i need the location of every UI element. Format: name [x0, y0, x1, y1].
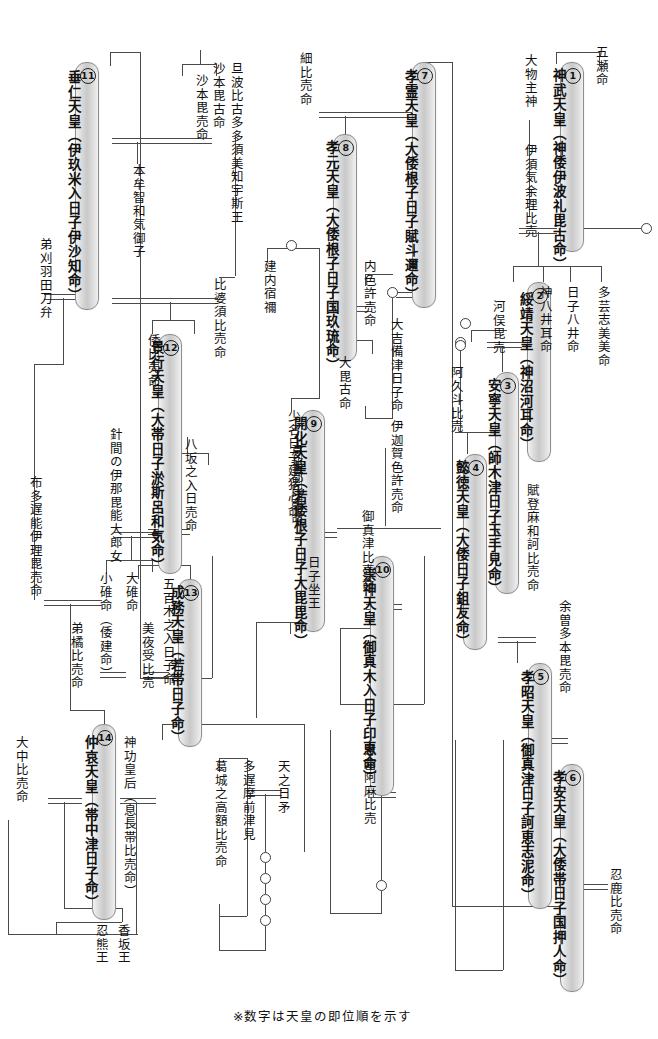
person-takeuchi: 建内宿禰: [262, 260, 275, 314]
emperor-capsule-11[interactable]: 11 垂仁天皇（伊玖米入日子伊沙知命）: [75, 62, 99, 310]
person-kousu: 小碓命（倭建命）: [98, 572, 111, 680]
generation-node: [260, 852, 271, 863]
connector: [345, 116, 346, 134]
connector: [570, 266, 571, 282]
connector: [219, 904, 220, 916]
connector: [337, 528, 441, 529]
connector: [304, 724, 305, 852]
connector: [110, 52, 140, 53]
person-tajima: 多遅摩前津見: [241, 760, 254, 841]
person-hikoimasu: 日子坐王: [306, 556, 319, 610]
emperor-capsule-3[interactable]: 3 安寧天皇（師木津日子玉手見命）: [495, 372, 519, 594]
connector: [385, 448, 386, 526]
person-hikoyai: 日子八井命: [565, 286, 578, 354]
emperor-capsule-1[interactable]: 1 神武天皇（神倭伊波礼毘古命）: [560, 62, 584, 252]
unnamed-person-node: [455, 340, 466, 351]
person-futajinoiri: 布多遅能伊理毘売命: [28, 476, 41, 598]
connector: [319, 248, 320, 398]
connector: [8, 820, 9, 934]
connector: [64, 802, 65, 908]
connector: [455, 740, 456, 970]
person-isukeyori: 伊須気余理比売: [523, 144, 536, 239]
person-uchishikome: 内色許売命: [362, 260, 375, 328]
person-kamuyaimimi: 神八井耳命: [538, 286, 551, 354]
person-kagosaka: 香坂王: [116, 924, 129, 965]
emperor-capsule-12[interactable]: 12 景行天皇（大帯日子淤斯呂和気命）: [158, 334, 182, 574]
emperor-name-14: 仲哀天皇（帯中津日子命）: [83, 735, 99, 909]
connector: [131, 536, 132, 560]
connector: [424, 556, 425, 704]
connector: [330, 913, 382, 914]
connector: [110, 52, 111, 66]
emperor-name-7: 孝霊天皇（大倭根子日子賦斗邇命）: [403, 69, 419, 301]
connector: [265, 884, 266, 894]
connector: [467, 432, 468, 454]
connector: [538, 232, 539, 266]
connector: [256, 622, 292, 623]
person-homuchi: 本牟智和気御子: [131, 164, 144, 259]
connector: [190, 565, 191, 579]
unnamed-person-node: [286, 240, 297, 251]
person-ototachibana: 弟橘比売命: [69, 622, 82, 690]
person-onaka: 大中比売命: [14, 736, 27, 804]
person-harima: 針間の伊那毘能大郎女: [108, 428, 121, 563]
person-tanba: 旦波比古多多須美知宇斯王: [229, 62, 242, 224]
emperor-number-4: 4: [468, 460, 484, 476]
emperor-number-1: 1: [565, 68, 581, 84]
person-kuwashi: 細比売命: [298, 52, 311, 106]
connector: [194, 320, 195, 334]
person-okitsu: 意祁都比売命: [289, 444, 302, 525]
connector: [556, 52, 557, 64]
person-kawamata: 河俣毘売: [491, 300, 504, 354]
connector: [452, 62, 453, 906]
connector: [381, 858, 382, 880]
connector: [265, 926, 266, 950]
person-jingu: 神功皇后（息長帯比売命）: [122, 736, 135, 898]
emperor-name-1: 神武天皇（神倭伊波礼毘古命）: [551, 68, 567, 271]
connector: [104, 710, 105, 724]
emperor-capsule-13[interactable]: 13 成務天皇（若帯日子命）: [178, 579, 202, 747]
person-futomawaka: 賦登麻和訶比売命: [525, 484, 538, 592]
emperor-number-8: 8: [338, 140, 354, 156]
generation-node: [260, 915, 271, 926]
connector: [70, 710, 104, 711]
marriage-connector: [44, 600, 102, 606]
person-okibitsu: 大吉備津日子命: [389, 318, 402, 413]
emperor-name-6: 孝安天皇（大倭帯日子国押人命）: [551, 770, 567, 988]
person-ousu: 大碓命: [124, 572, 137, 613]
emperor-name-8: 孝元天皇（大倭根子日子国玖琉命）: [324, 140, 340, 372]
person-akuto: 阿久斗比売: [449, 366, 462, 434]
emperor-capsule-6[interactable]: 6 孝安天皇（大倭帯日子国押人命）: [560, 764, 584, 992]
emperor-capsule-5[interactable]: 5 孝昭天皇（御真津日子訶恵志泥命）: [528, 663, 552, 909]
emperor-name-3: 安寧天皇（師木津日子玉手見命）: [486, 378, 502, 596]
connector: [219, 916, 220, 950]
connector: [290, 622, 291, 634]
emperor-name-4: 懿徳天皇（大倭日子鉏友命）: [454, 460, 470, 649]
emperor-capsule-7[interactable]: 7 孝霊天皇（大倭根子日子賦斗邇命）: [412, 62, 436, 308]
connector: [56, 922, 122, 923]
connector: [455, 970, 503, 971]
connector: [182, 64, 183, 76]
person-ikagashikome: 伊迦賀色許売命: [389, 420, 402, 515]
emperor-capsule-8[interactable]: 8 孝元天皇（大倭根子日子国玖琉命）: [333, 134, 357, 362]
person-tagishimimi: 多芸志美美命: [596, 286, 609, 367]
chart-footnote: ※数字は天皇の即位順を示す: [233, 1006, 412, 1025]
connector: [212, 556, 213, 678]
connector: [340, 628, 341, 704]
person-ohoama: 意富阿麻比売: [362, 744, 375, 825]
person-kazuraki: 葛城之高額比売命: [213, 760, 226, 868]
emperor-number-6: 6: [565, 770, 581, 786]
emperor-capsule-4[interactable]: 4 懿徳天皇（大倭日子鉏友命）: [463, 454, 487, 650]
emperor-capsule-14[interactable]: 14 仲哀天皇（帯中津日子命）: [92, 724, 116, 920]
connector: [513, 266, 514, 282]
emperor-number-12: 12: [163, 340, 179, 356]
emperor-number-3: 3: [500, 378, 516, 394]
unnamed-person-node: [641, 223, 652, 234]
emperor-number-11: 11: [80, 68, 96, 84]
connector: [152, 320, 194, 321]
connector: [365, 418, 393, 419]
emperor-name-5: 孝昭天皇（御真津日子訶恵志泥命）: [519, 670, 535, 902]
person-yasaka: 八坂之入日売命: [183, 438, 196, 533]
connector: [34, 364, 64, 365]
person-sahobiko: 沙本毘古命: [211, 62, 224, 130]
